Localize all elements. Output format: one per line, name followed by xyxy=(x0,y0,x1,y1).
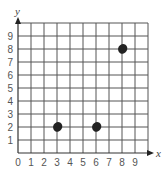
axes xyxy=(15,17,154,156)
y-tick-label: 5 xyxy=(7,83,13,94)
y-axis-label: y xyxy=(14,5,20,17)
x-tick-label: 6 xyxy=(93,157,99,168)
x-tick-label: 3 xyxy=(54,157,60,168)
y-tick-label: 3 xyxy=(7,109,13,120)
y-axis-arrow-icon xyxy=(15,17,21,24)
x-axis-label: x xyxy=(155,147,161,159)
data-point xyxy=(90,120,103,133)
x-tick-label: 9 xyxy=(132,157,138,168)
x-tick-label: 8 xyxy=(119,157,125,168)
data-point xyxy=(116,42,129,55)
y-tick-label: 4 xyxy=(7,96,13,107)
y-tick-label: 6 xyxy=(7,70,13,81)
y-tick-label: 2 xyxy=(7,122,13,133)
x-tick-label: 0 xyxy=(15,157,21,168)
coordinate-grid-chart: 0123456789 123456789 x y xyxy=(0,0,164,173)
x-tick-label: 2 xyxy=(41,157,47,168)
y-tick-label: 1 xyxy=(7,135,13,146)
y-tick-label: 9 xyxy=(7,31,13,42)
x-tick-labels: 0123456789 xyxy=(15,157,138,168)
x-tick-label: 1 xyxy=(28,157,34,168)
y-tick-label: 7 xyxy=(7,57,13,68)
grid-lines xyxy=(18,23,148,153)
x-tick-label: 7 xyxy=(106,157,112,168)
x-tick-label: 4 xyxy=(67,157,73,168)
x-tick-label: 5 xyxy=(80,157,86,168)
data-point xyxy=(51,120,64,133)
y-tick-labels: 123456789 xyxy=(7,31,13,146)
x-axis-arrow-icon xyxy=(147,150,154,156)
y-tick-label: 8 xyxy=(7,44,13,55)
